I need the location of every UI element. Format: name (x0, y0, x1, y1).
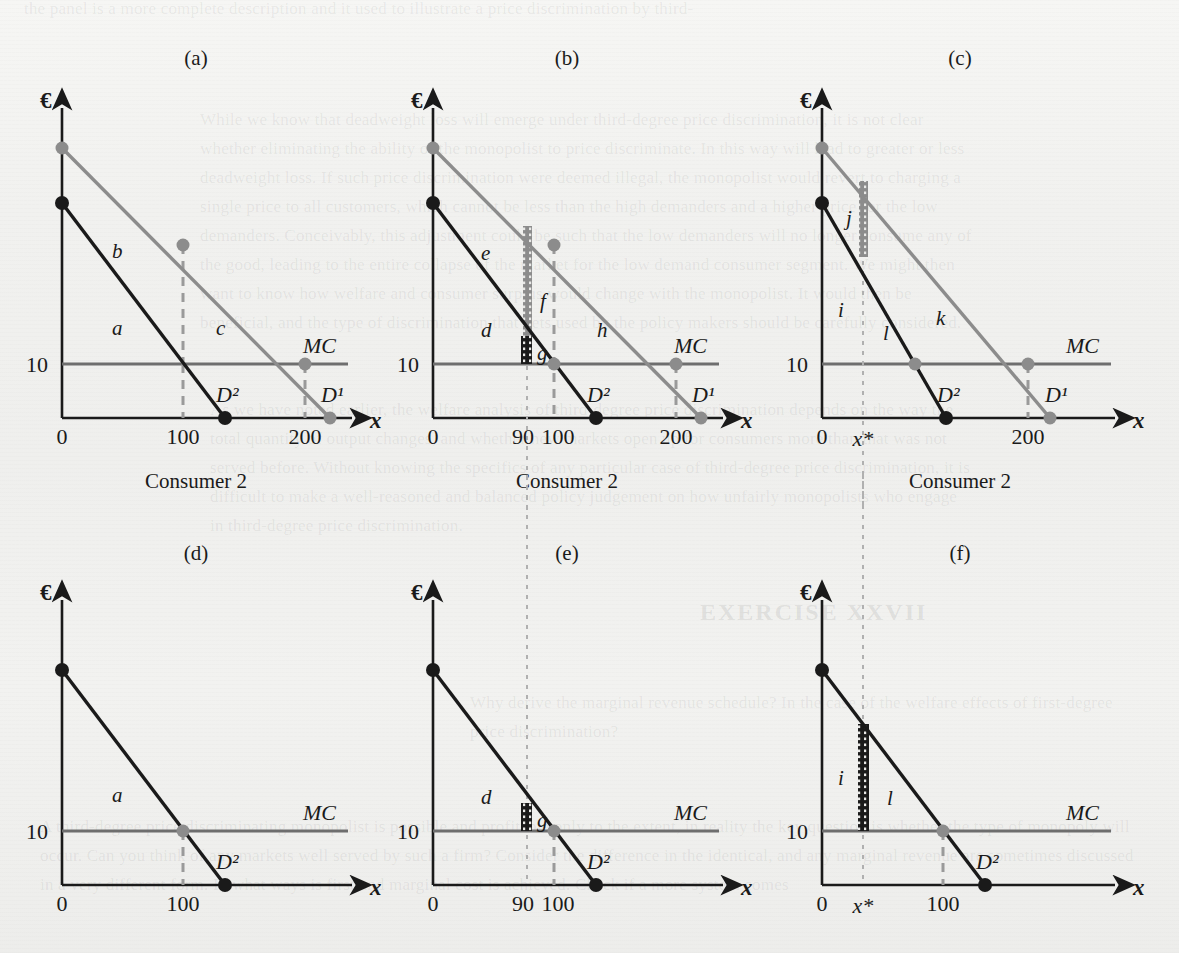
panel-a-region-c: c (216, 316, 226, 340)
panel-b-d1-intercept-dot (427, 142, 440, 155)
panel-b-region-g: g (537, 341, 548, 365)
panel-a-d1-x-intercept-dot (324, 412, 337, 425)
panel-c-curve-d1 (822, 148, 1050, 418)
panel-c-region-k: k (936, 306, 946, 330)
panel-c-letter: (c) (948, 46, 971, 70)
panel-c-mc-label: MC (1065, 333, 1099, 358)
panel-e: (e) € x MC D² 10 0 90 100 d g (371, 520, 764, 940)
panel-b-region-h: h (597, 318, 608, 342)
panel-f-xtick-100: 100 (927, 891, 960, 916)
panel-f-region-i: i (838, 766, 844, 790)
panel-e-mc-label: MC (673, 800, 707, 825)
panel-a-region-a: a (112, 316, 123, 340)
panel-c-y-axis-label: € (800, 88, 812, 113)
panel-f-mc-label: MC (1065, 800, 1099, 825)
panel-b-d2-label: D² (586, 382, 610, 407)
panel-b: (b) € x MC D¹ (371, 40, 764, 520)
panel-f-chart: (f) € x MC D² 10 0 x* 100 i l (760, 520, 1160, 940)
panel-b-chart: (b) € x MC D¹ (371, 40, 764, 520)
panel-a-d2-intercept-dot (55, 196, 69, 210)
panel-b-xtick-200: 200 (660, 424, 693, 449)
panel-b-d1-label: D¹ (691, 382, 714, 407)
panel-a: (a) € x MC D¹ D² 1 (0, 40, 393, 520)
panel-e-xtick-100: 100 (542, 891, 575, 916)
panel-e-d2-label: D² (586, 849, 610, 874)
panel-a-caption: Consumer 2 (145, 469, 247, 493)
panel-f-y-axis-label: € (800, 580, 812, 605)
panel-a-xtick-200: 200 (289, 424, 322, 449)
panel-b-mc-label: MC (673, 333, 707, 358)
panel-c-ytick-10: 10 (786, 352, 808, 377)
panel-c-xtick-200: 200 (1012, 424, 1045, 449)
panel-d-region-a: a (112, 783, 123, 807)
panel-d-mc-label: MC (302, 800, 336, 825)
panel-b-curve-d2 (433, 203, 596, 418)
panel-f-xtick-xstar: x* (852, 893, 874, 918)
panel-a-d1-point-100 (177, 239, 190, 252)
panel-c-d2-label: D² (936, 382, 960, 407)
panel-c-d2-x-intercept-dot (939, 411, 953, 425)
panel-a-mc-label: MC (302, 333, 336, 358)
panel-d-xtick-100: 100 (167, 891, 200, 916)
panel-d: (d) € x MC D² 10 0 100 a (0, 520, 393, 940)
panel-f-letter: (f) (950, 541, 971, 565)
panel-e-origin-label: 0 (428, 891, 439, 916)
panel-b-caption: Consumer 2 (516, 469, 618, 493)
panel-a-d1-mc-dot (299, 358, 312, 371)
panel-d-letter: (d) (184, 541, 209, 565)
panel-c-d1-label: D¹ (1044, 382, 1067, 407)
panel-c-d2-mc-dot (909, 358, 922, 371)
panel-e-region-d: d (481, 785, 492, 809)
panel-b-letter: (b) (555, 46, 580, 70)
panel-a-chart: (a) € x MC D¹ D² 1 (0, 40, 393, 520)
panel-b-origin-label: 0 (428, 424, 439, 449)
panel-e-curve-d2 (433, 670, 596, 885)
panel-a-d2-x-intercept-dot (218, 411, 232, 425)
panel-b-region-e: e (481, 241, 490, 265)
panel-e-bar-g (521, 803, 532, 831)
panel-f-region-l: l (887, 786, 893, 810)
panel-e-d2-intercept-dot (426, 663, 440, 677)
panel-e-ytick-10: 10 (397, 819, 419, 844)
panel-c-chart: (c) € x MC D¹ D² (760, 40, 1160, 520)
panel-d-d2-label: D² (215, 849, 239, 874)
panel-c-region-l: l (883, 321, 889, 345)
panel-b-d2-x-intercept-dot (589, 411, 603, 425)
panel-b-region-d: d (481, 318, 492, 342)
panel-c-d2-intercept-dot (815, 196, 829, 210)
panel-e-chart: (e) € x MC D² 10 0 90 100 d g (371, 520, 764, 940)
panel-e-region-g: g (537, 808, 548, 832)
panel-c-d1-x-intercept-dot (1044, 412, 1057, 425)
panel-b-d2-mc-dot (548, 358, 561, 371)
panel-c-d1-intercept-dot (816, 142, 829, 155)
panel-a-curve-d2 (62, 203, 225, 418)
panel-a-d2-label: D² (215, 382, 239, 407)
panel-f-x-axis-label: x (1132, 875, 1145, 900)
panel-b-region-f: f (540, 289, 549, 313)
panel-d-ytick-10: 10 (26, 819, 48, 844)
panel-a-origin-label: 0 (57, 424, 68, 449)
panel-c-d1-mc-dot (1022, 358, 1035, 371)
panel-b-d2-intercept-dot (426, 196, 440, 210)
panel-e-d2-mc-dot (548, 825, 561, 838)
panel-f-d2-label: D² (975, 849, 999, 874)
panel-f-d2-mc-dot (937, 825, 950, 838)
panel-e-letter: (e) (555, 541, 578, 565)
panel-c-region-j: j (843, 206, 852, 230)
panel-f-origin-label: 0 (817, 891, 828, 916)
panel-c: (c) € x MC D¹ D² (760, 40, 1160, 520)
panel-a-d1-intercept-dot (56, 142, 69, 155)
panel-c-origin-label: 0 (817, 424, 828, 449)
panel-a-xtick-100: 100 (167, 424, 200, 449)
panel-b-d1-point-100 (548, 239, 561, 252)
panel-b-y-axis-label: € (411, 88, 423, 113)
panel-a-y-axis-label: € (40, 88, 52, 113)
panel-e-x-axis-label: x (740, 875, 753, 900)
panel-f-curve-d2 (822, 670, 985, 885)
panel-c-caption: Consumer 2 (909, 469, 1011, 493)
panel-a-region-b: b (112, 239, 123, 263)
panel-a-d1-label: D¹ (320, 382, 343, 407)
panel-e-d2-x-intercept-dot (589, 878, 603, 892)
panel-b-xtick-100: 100 (542, 424, 575, 449)
panel-b-x-axis-label: x (740, 408, 753, 433)
